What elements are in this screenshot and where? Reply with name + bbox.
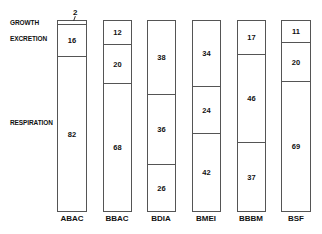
bar-bsf: 11 20 69 (281, 20, 311, 212)
bar-bbbm: 17 46 37 (237, 20, 266, 212)
bar-bmei: 34 24 42 (192, 20, 221, 212)
x-label-bmei: BMEI (186, 214, 226, 223)
row-label-respiration: RESPIRATION (10, 119, 53, 126)
segment-excretion: 16 (58, 24, 86, 56)
segment-middle: 24 (193, 86, 220, 133)
segment-excretion: 12 (104, 21, 131, 44)
segment-middle: 36 (148, 94, 175, 164)
x-label-bdia: BDIA (141, 214, 181, 223)
row-label-excretion: EXCRETION (10, 35, 47, 42)
segment-bottom: 42 (193, 133, 220, 211)
segment-top: 11 (282, 21, 310, 42)
bar-abac: 16 82 (57, 20, 87, 212)
x-label-bbbm: BBBM (231, 214, 271, 223)
segment-top: 38 (148, 21, 175, 94)
segment-middle: 20 (282, 42, 310, 81)
x-label-bbac: BBAC (97, 214, 137, 223)
segment-respiration: 68 (104, 83, 131, 211)
segment-top: 17 (238, 21, 265, 54)
segment-top: 34 (193, 21, 220, 86)
x-label-abac: ABAC (52, 214, 92, 223)
segment-middle: 20 (104, 44, 131, 83)
segment-bottom: 69 (282, 81, 310, 211)
segment-bottom: 26 (148, 164, 175, 211)
x-label-bsf: BSF (276, 214, 316, 223)
segment-middle: 46 (238, 54, 265, 142)
bar-bbac: 12 20 68 (103, 20, 132, 212)
bar-bdia: 38 36 26 (147, 20, 176, 212)
segment-bottom: 37 (238, 142, 265, 211)
row-label-growth: GROWTH (10, 19, 39, 26)
segment-respiration: 82 (58, 56, 86, 211)
